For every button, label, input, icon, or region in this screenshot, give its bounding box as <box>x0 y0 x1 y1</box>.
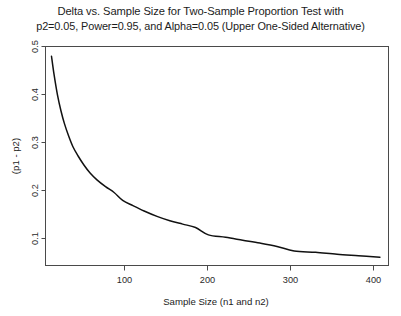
y-tick-label-0: 0.5 <box>30 40 40 53</box>
x-tick-label-400: 400 <box>366 275 381 285</box>
y-tick-label-2: 0.3 <box>30 136 40 149</box>
x-tick-label-100: 100 <box>117 275 132 285</box>
plot-frame <box>46 47 389 266</box>
x-tick-label-200: 200 <box>200 275 215 285</box>
x-axis-title: Sample Size (n1 and n2) <box>163 296 269 307</box>
y-tick-label-4: 0.1 <box>30 232 40 245</box>
x-axis-tick-labels: 100 200 300 400 <box>117 275 381 285</box>
x-axis-ticks <box>125 266 374 271</box>
y-tick-label-3: 0.2 <box>30 184 40 197</box>
y-axis-tick-labels: 0.5 0.4 0.3 0.2 0.1 <box>30 40 40 245</box>
y-axis-title: (p1 - p2) <box>10 138 21 174</box>
plot-area: 0.5 0.4 0.3 0.2 0.1 (p1 - p2) 100 200 30… <box>0 0 401 316</box>
y-axis-ticks <box>42 47 46 239</box>
y-tick-label-1: 0.4 <box>30 88 40 101</box>
x-tick-label-300: 300 <box>283 275 298 285</box>
data-curve-delta <box>52 56 380 257</box>
chart-figure: Delta vs. Sample Size for Two-Sample Pro… <box>0 0 401 316</box>
